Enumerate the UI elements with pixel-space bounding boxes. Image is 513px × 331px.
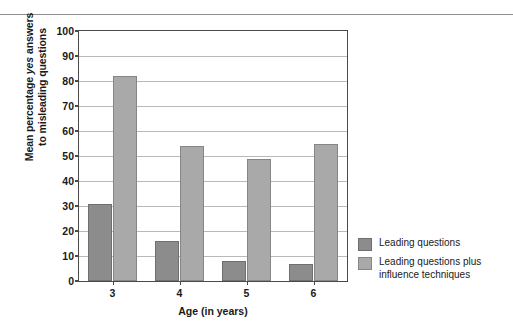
legend-label-series-1-line-2: influence techniques <box>379 269 470 280</box>
y-tick-label-0: 0 <box>34 275 74 287</box>
y-tick-mark-40 <box>75 180 79 181</box>
bar-age-4-series-1 <box>180 146 204 281</box>
x-tick-label-4: 4 <box>160 287 200 299</box>
y-tick-label-40: 40 <box>34 175 74 187</box>
x-tick-mark-6 <box>314 281 315 285</box>
chart-legend: Leading questions Leading questions plus… <box>358 237 510 286</box>
x-tick-label-5: 5 <box>227 287 267 299</box>
legend-label-series-1: Leading questions plus influence techniq… <box>379 256 481 281</box>
top-divider-rule <box>0 14 513 15</box>
y-tick-mark-70 <box>75 105 79 106</box>
bar-age-6-series-0 <box>289 264 313 282</box>
bar-age-5-series-0 <box>222 261 246 281</box>
plot-area: 01020304050607080901003456 <box>79 31 347 281</box>
y-tick-mark-20 <box>75 230 79 231</box>
bar-age-3-series-1 <box>113 76 137 281</box>
bar-age-6-series-1 <box>314 144 338 282</box>
x-tick-label-6: 6 <box>294 287 334 299</box>
figure: Mean percentage yes answers to misleadin… <box>0 0 513 331</box>
bar-age-5-series-1 <box>247 159 271 282</box>
y-tick-mark-90 <box>75 55 79 56</box>
y-tick-mark-50 <box>75 155 79 156</box>
x-axis-title: Age (in years) <box>78 305 348 317</box>
y-tick-mark-100 <box>75 30 79 31</box>
x-tick-mark-4 <box>180 281 181 285</box>
x-tick-label-3: 3 <box>93 287 133 299</box>
y-tick-label-80: 80 <box>34 75 74 87</box>
y-tick-label-100: 100 <box>34 25 74 37</box>
y-tick-mark-0 <box>75 280 79 281</box>
legend-swatch-series-1 <box>358 257 372 270</box>
legend-swatch-series-0 <box>358 238 372 251</box>
y-tick-mark-60 <box>75 130 79 131</box>
legend-item-leading-questions-plus-influence: Leading questions plus influence techniq… <box>358 256 510 281</box>
y-tick-label-70: 70 <box>34 100 74 112</box>
bar-age-3-series-0 <box>88 204 112 282</box>
y-tick-mark-80 <box>75 80 79 81</box>
legend-label-series-0: Leading questions <box>379 237 460 250</box>
y-tick-mark-30 <box>75 205 79 206</box>
y-tick-label-20: 20 <box>34 225 74 237</box>
legend-item-leading-questions: Leading questions <box>358 237 510 251</box>
y-tick-label-30: 30 <box>34 200 74 212</box>
gridline-90 <box>79 56 347 57</box>
x-tick-mark-5 <box>247 281 248 285</box>
x-tick-mark-3 <box>113 281 114 285</box>
y-tick-label-50: 50 <box>34 150 74 162</box>
y-tick-label-90: 90 <box>34 50 74 62</box>
legend-label-series-1-line-1: Leading questions plus <box>379 256 481 267</box>
bar-age-4-series-0 <box>155 241 179 281</box>
y-tick-label-10: 10 <box>34 250 74 262</box>
y-tick-label-60: 60 <box>34 125 74 137</box>
plot-frame: 01020304050607080901003456 <box>78 30 348 282</box>
y-tick-mark-10 <box>75 255 79 256</box>
